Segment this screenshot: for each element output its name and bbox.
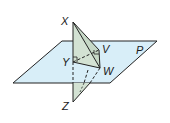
label-y: Y <box>62 56 70 68</box>
label-plane-p: P <box>136 44 144 56</box>
geometry-diagram: X Y Z V W P <box>0 0 170 123</box>
label-w: W <box>103 65 115 77</box>
label-x: X <box>60 15 69 27</box>
label-z: Z <box>61 100 70 112</box>
